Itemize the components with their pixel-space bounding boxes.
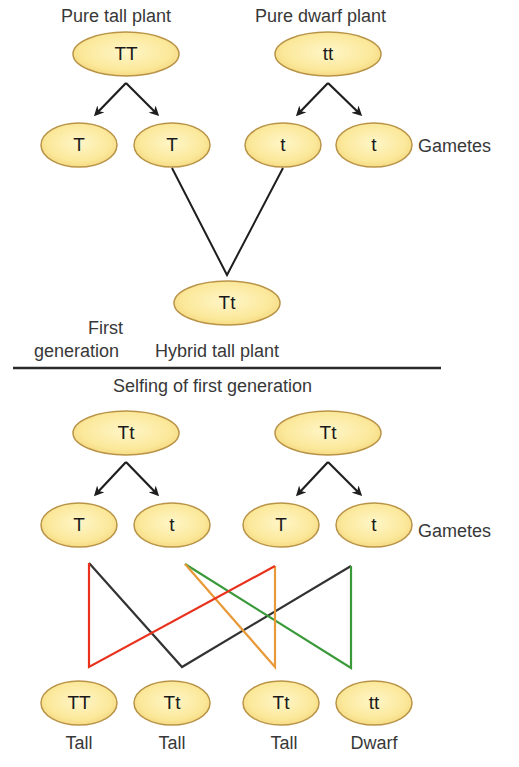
label-generation: generation — [34, 341, 119, 361]
arrows-top — [96, 83, 360, 114]
gamete-allele: T — [243, 515, 319, 535]
arrows-bottom — [96, 462, 360, 494]
genotype-parent-right: tt — [275, 44, 381, 64]
label-selfing: Selfing of first generation — [113, 376, 312, 396]
genotype-parent-left: TT — [73, 44, 179, 64]
fusion-lines — [172, 168, 283, 275]
gamete-allele: t — [134, 515, 210, 535]
label-pure-tall: Pure tall plant — [61, 6, 171, 26]
genotype-offspring: TT — [41, 693, 117, 713]
phenotype-label: Tall — [134, 733, 210, 753]
label-pure-dwarf: Pure dwarf plant — [255, 6, 386, 26]
label-gametes-bottom: Gametes — [418, 521, 491, 541]
label-gametes-top: Gametes — [418, 136, 491, 156]
gamete-allele: T — [134, 135, 210, 155]
genotype-offspring: Tt — [134, 693, 210, 713]
phenotype-label: Tall — [246, 733, 322, 753]
gamete-allele: t — [336, 135, 412, 155]
cross-line-orange — [185, 564, 275, 667]
label-first: First — [88, 318, 123, 338]
gamete-allele: T — [41, 135, 117, 155]
phenotype-label: Tall — [41, 733, 117, 753]
genotype-offspring: tt — [336, 693, 412, 713]
gamete-allele: T — [41, 515, 117, 535]
gamete-allele: t — [245, 135, 321, 155]
genotype-hybrid: Tt — [174, 293, 280, 313]
phenotype-label: Dwarf — [336, 733, 412, 753]
gamete-allele: t — [336, 515, 412, 535]
genotype-offspring: Tt — [243, 693, 319, 713]
cross-lines — [89, 563, 351, 668]
genotype-parent-right-f1: Tt — [275, 423, 381, 443]
cross-line-red — [89, 563, 275, 667]
genotype-parent-left-f1: Tt — [73, 423, 179, 443]
cross-line-black — [89, 563, 351, 667]
label-hybrid-tall: Hybrid tall plant — [155, 341, 279, 361]
